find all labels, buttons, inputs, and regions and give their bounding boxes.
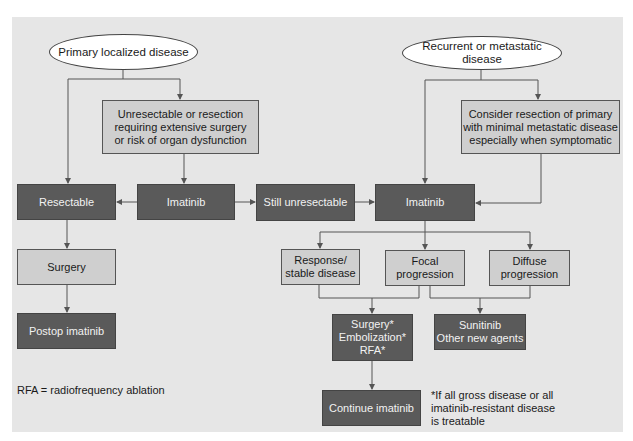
node-resectable: Resectable <box>17 184 116 220</box>
node-postop-imatinib: Postop imatinib <box>17 313 116 349</box>
node-local-therapy: Surgery* Embolization* RFA* <box>332 314 413 361</box>
footnote: *If all gross disease or all imatinib-re… <box>431 389 555 428</box>
node-sunitinib: Sunitinib Other new agents <box>434 314 526 350</box>
node-recurrent-metastatic-disease: Recurrent or metastatic disease <box>402 36 562 70</box>
node-primary-localized-disease: Primary localized disease <box>49 34 198 70</box>
node-unresectable-condition: Unresectable or resection requiring exte… <box>102 100 259 154</box>
node-still-unresectable: Still unresectable <box>256 184 355 221</box>
node-response-stable-disease: Response/ stable disease <box>281 249 360 285</box>
node-continue-imatinib: Continue imatinib <box>322 390 421 426</box>
node-diffuse-progression: Diffuse progression <box>489 250 570 286</box>
node-consider-resection: Consider resection of primary with minim… <box>461 100 620 154</box>
node-surgery: Surgery <box>17 249 116 285</box>
abbreviation-note: RFA = radiofrequency ablation <box>17 384 165 397</box>
node-imatinib-left: Imatinib <box>137 184 235 220</box>
node-focal-progression: Focal progression <box>385 250 465 286</box>
node-imatinib-right: Imatinib <box>375 184 475 221</box>
